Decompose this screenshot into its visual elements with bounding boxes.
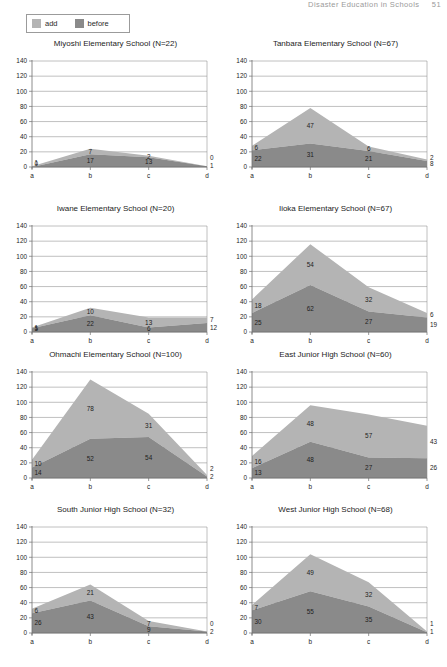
page-header: Disaster Education in Schools 51 <box>0 0 447 12</box>
y-tick-label: 140 <box>236 222 247 229</box>
y-tick-label: 20 <box>240 148 248 155</box>
data-value-label: 55 <box>307 608 315 615</box>
chart-svg: 020406080100120140abcd1071721301 <box>8 55 223 181</box>
data-value-label: 2 <box>210 465 214 472</box>
y-tick-label: 40 <box>240 298 248 305</box>
data-value-label: 27 <box>365 318 373 325</box>
x-tick-label: d <box>205 483 209 490</box>
y-tick-label: 120 <box>16 237 27 244</box>
x-tick-label: c <box>147 172 151 179</box>
y-tick-label: 80 <box>20 268 28 275</box>
y-tick-label: 140 <box>236 57 247 64</box>
chart-svg: 020406080100120140abcd182554623227619 <box>228 220 443 346</box>
x-tick-label: c <box>147 337 151 344</box>
data-value-label: 21 <box>87 589 95 596</box>
data-value-label: 6 <box>35 607 39 614</box>
x-tick-label: b <box>89 337 93 344</box>
data-value-label: 32 <box>365 591 373 598</box>
y-tick-label: 100 <box>236 399 247 406</box>
data-value-label: 47 <box>307 122 315 129</box>
data-value-label: 2 <box>210 473 214 480</box>
data-value-label: 43 <box>430 438 438 445</box>
y-tick-label: 120 <box>236 383 247 390</box>
data-value-label: 25 <box>255 319 263 326</box>
chart-title-3: Iioka Elementary School (N=67) <box>228 203 443 214</box>
data-value-label: 13 <box>255 469 263 476</box>
y-tick-label: 20 <box>240 313 248 320</box>
chart-svg: 020406080100120140abcd622473162128 <box>228 55 443 181</box>
chart-title-0: Miyoshi Elementary School (N=22) <box>8 38 223 49</box>
x-tick-label: b <box>89 172 93 179</box>
x-tick-label: c <box>367 337 371 344</box>
y-tick-label: 120 <box>16 383 27 390</box>
chart-panel-1: Tanbara Elementary School (N=67) 0204060… <box>228 38 443 190</box>
chart-panel-0: Miyoshi Elementary School (N=22) 0204060… <box>8 38 223 190</box>
y-tick-label: 0 <box>243 328 247 335</box>
x-tick-label: b <box>309 172 313 179</box>
data-value-label: 6 <box>255 144 259 151</box>
x-tick-label: c <box>147 638 151 645</box>
y-tick-label: 80 <box>240 103 248 110</box>
legend-label-add: add <box>45 19 58 28</box>
y-tick-label: 60 <box>240 118 248 125</box>
y-tick-label: 60 <box>240 429 248 436</box>
y-tick-label: 20 <box>20 614 28 621</box>
y-tick-label: 100 <box>16 88 27 95</box>
data-value-label: 31 <box>145 422 153 429</box>
page-header-title: Disaster Education in Schools <box>308 0 419 9</box>
data-value-label: 21 <box>365 155 373 162</box>
chart-svg: 020406080100120140abcd10147852315422 <box>8 366 223 492</box>
y-tick-label: 120 <box>236 72 247 79</box>
x-tick-label: a <box>30 483 34 490</box>
data-value-label: 30 <box>255 618 263 625</box>
y-tick-label: 40 <box>20 298 28 305</box>
chart-svg: 020406080100120140abcd62621437902 <box>8 521 223 647</box>
y-tick-label: 0 <box>23 629 27 636</box>
chart-title-7: West Junior High School (N=68) <box>228 504 443 515</box>
chart-plot-7: 020406080100120140abcd7304955323511 <box>228 521 443 647</box>
x-tick-label: a <box>250 337 254 344</box>
y-tick-label: 80 <box>240 268 248 275</box>
chart-plot-4: 020406080100120140abcd10147852315422 <box>8 366 223 492</box>
data-value-label: 10 <box>87 308 95 315</box>
chart-plot-0: 020406080100120140abcd1071721301 <box>8 55 223 181</box>
chart-plot-1: 020406080100120140abcd622473162128 <box>228 55 443 181</box>
y-tick-label: 20 <box>240 459 248 466</box>
y-tick-label: 140 <box>16 523 27 530</box>
y-tick-label: 120 <box>16 538 27 545</box>
x-tick-label: b <box>89 483 93 490</box>
y-tick-label: 140 <box>16 368 27 375</box>
x-tick-label: d <box>425 483 429 490</box>
legend-item-before: before <box>75 19 109 28</box>
y-tick-label: 100 <box>16 253 27 260</box>
chart-title-4: Ohmachi Elementary School (N=100) <box>8 349 223 360</box>
data-value-label: 7 <box>89 148 93 155</box>
y-tick-label: 20 <box>20 313 28 320</box>
x-tick-label: c <box>367 172 371 179</box>
data-value-label: 35 <box>365 616 373 623</box>
y-tick-label: 80 <box>20 103 28 110</box>
data-value-label: 32 <box>365 296 373 303</box>
data-value-label: 18 <box>255 302 263 309</box>
legend-label-before: before <box>88 19 109 28</box>
y-tick-label: 140 <box>16 222 27 229</box>
y-tick-label: 100 <box>236 88 247 95</box>
x-tick-label: a <box>250 638 254 645</box>
chart-svg: 020406080100120140abcd151022136712 <box>8 220 223 346</box>
y-tick-label: 100 <box>236 253 247 260</box>
x-tick-label: a <box>250 172 254 179</box>
data-value-label: 48 <box>307 456 315 463</box>
x-tick-label: c <box>147 483 151 490</box>
legend-swatch-add <box>32 19 41 28</box>
data-value-label: 48 <box>307 420 315 427</box>
y-tick-label: 100 <box>16 399 27 406</box>
data-value-label: 13 <box>145 158 153 165</box>
data-value-label: 54 <box>145 454 153 461</box>
data-value-label: 7 <box>210 316 214 323</box>
y-tick-label: 100 <box>236 554 247 561</box>
data-value-label: 31 <box>307 151 315 158</box>
data-value-label: 1 <box>210 162 214 169</box>
x-tick-label: a <box>30 337 34 344</box>
data-value-label: 1 <box>430 628 434 635</box>
data-value-label: 0 <box>210 154 214 161</box>
